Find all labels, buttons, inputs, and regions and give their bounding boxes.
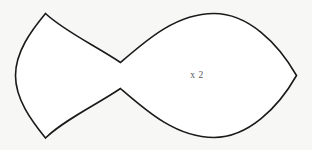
multiplier-label: x 2 [190, 70, 204, 80]
figure-canvas: x 2 [0, 0, 312, 150]
fish-shape-outline [16, 14, 297, 139]
fish-shape-svg: x 2 [0, 0, 312, 150]
